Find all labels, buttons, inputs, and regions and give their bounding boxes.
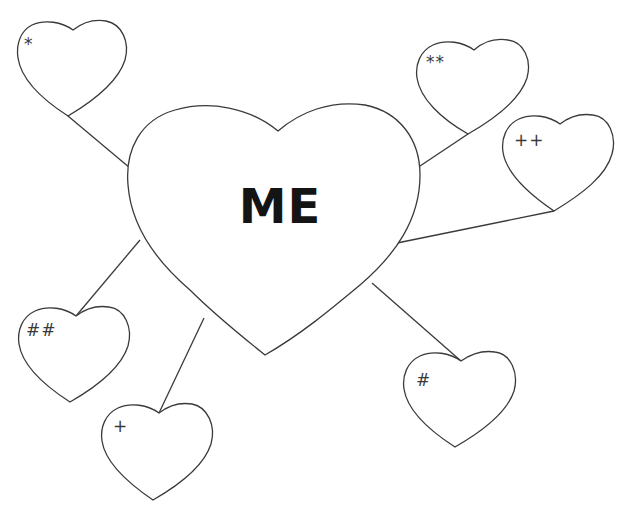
link-hash <box>372 283 461 361</box>
link-double-star <box>420 134 468 166</box>
heart-map-canvas <box>0 0 631 507</box>
link-double-plus <box>397 211 554 243</box>
heart-double-star-label: ** <box>426 54 445 71</box>
link-star <box>68 116 130 168</box>
heart-hash-label: # <box>416 372 431 389</box>
heart-star <box>18 20 127 116</box>
heart-double-plus-label: ++ <box>514 132 545 149</box>
heart-hash <box>404 351 516 447</box>
heart-double-hash-label: ## <box>26 322 57 339</box>
heart-plus-label: + <box>113 418 128 435</box>
link-double-hash <box>76 240 140 316</box>
center-heart-label: ME <box>200 178 360 234</box>
link-plus <box>159 318 204 413</box>
heart-double-plus <box>503 114 614 211</box>
heart-star-label: * <box>24 36 34 53</box>
